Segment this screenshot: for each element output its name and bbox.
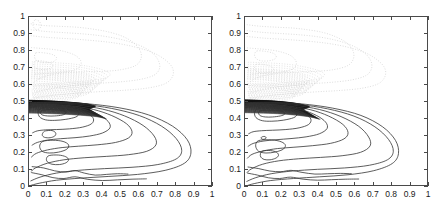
x-tick-mark [391, 182, 392, 186]
y-tick-mark [28, 152, 32, 153]
y-tick-mark-right [208, 101, 212, 102]
x-tick-label: 0.2 [59, 190, 71, 199]
x-tick-mark [410, 182, 411, 186]
y-tick-mark-right [208, 186, 212, 187]
y-tick-label: 0.2 [2, 148, 25, 157]
y-tick-mark [28, 135, 32, 136]
y-tick-mark [244, 84, 248, 85]
x-tick-mark [194, 182, 195, 186]
y-tick-mark-right [208, 50, 212, 51]
x-tick-label: 0.9 [188, 190, 200, 199]
x-tick-mark-top [194, 16, 195, 20]
x-tick-mark-top [318, 16, 319, 20]
y-tick-mark-right [424, 169, 428, 170]
x-tick-label: 0.4 [96, 190, 108, 199]
y-tick-label: 1 [218, 12, 241, 21]
x-tick-mark-top [428, 16, 429, 20]
x-tick-label: 0.8 [169, 190, 181, 199]
contour-path [245, 102, 398, 186]
x-tick-mark [138, 182, 139, 186]
y-tick-mark-right [424, 84, 428, 85]
y-tick-label: 0.4 [218, 114, 241, 123]
y-tick-mark [28, 169, 32, 170]
x-tick-label: 0 [242, 190, 247, 199]
y-tick-mark [28, 67, 32, 68]
x-tick-mark [46, 182, 47, 186]
contour-path [255, 51, 277, 61]
x-tick-label: 0.1 [256, 190, 268, 199]
y-tick-mark [244, 16, 248, 17]
right-contour-panel: 00.10.20.30.40.50.60.70.80.9100.10.20.30… [218, 0, 435, 220]
x-tick-label: 0.8 [385, 190, 397, 199]
y-tick-mark [28, 118, 32, 119]
y-tick-label: 0.5 [2, 97, 25, 106]
contour-path [261, 136, 266, 139]
x-tick-label: 0.7 [367, 190, 379, 199]
x-tick-mark-top [299, 16, 300, 20]
y-tick-mark-right [208, 135, 212, 136]
y-tick-mark-right [208, 152, 212, 153]
contour-path [42, 130, 56, 137]
x-tick-label: 0.1 [40, 190, 52, 199]
y-tick-mark [28, 186, 32, 187]
x-tick-label: 0.5 [114, 190, 126, 199]
y-tick-mark [244, 50, 248, 51]
x-tick-label: 0.3 [77, 190, 89, 199]
contour-path [34, 61, 53, 70]
y-tick-mark [28, 33, 32, 34]
y-tick-label: 0 [218, 182, 241, 191]
y-tick-mark-right [424, 135, 428, 136]
x-tick-mark-top [138, 16, 139, 20]
y-tick-mark-right [208, 118, 212, 119]
y-tick-mark-right [424, 152, 428, 153]
x-tick-label: 0.5 [330, 190, 342, 199]
contour-path [247, 31, 372, 93]
y-tick-label: 1 [2, 12, 25, 21]
x-tick-mark [157, 182, 158, 186]
x-tick-mark [212, 182, 213, 186]
x-tick-mark-top [65, 16, 66, 20]
y-tick-mark-right [208, 67, 212, 68]
x-tick-mark-top [212, 16, 213, 20]
y-tick-label: 0.6 [2, 80, 25, 89]
y-tick-mark-right [208, 84, 212, 85]
y-tick-label: 0.3 [218, 131, 241, 140]
y-tick-mark [28, 84, 32, 85]
y-tick-mark [244, 186, 248, 187]
x-tick-mark [373, 182, 374, 186]
y-tick-label: 0.1 [2, 165, 25, 174]
x-tick-label: 0.9 [404, 190, 416, 199]
y-tick-mark [244, 152, 248, 153]
contour-path [246, 103, 394, 182]
y-tick-label: 0.7 [218, 63, 241, 72]
x-tick-mark [281, 182, 282, 186]
x-tick-label: 0.4 [312, 190, 324, 199]
y-tick-mark-right [424, 118, 428, 119]
x-tick-mark-top [354, 16, 355, 20]
y-tick-mark [244, 118, 248, 119]
left-axes-box [28, 16, 212, 186]
x-tick-mark-top [262, 16, 263, 20]
x-tick-mark-top [120, 16, 121, 20]
x-tick-label: 0.3 [293, 190, 305, 199]
y-tick-mark [244, 33, 248, 34]
y-tick-label: 0.6 [218, 80, 241, 89]
y-tick-label: 0.2 [218, 148, 241, 157]
x-tick-mark-top [175, 16, 176, 20]
x-tick-mark [299, 182, 300, 186]
contour-path [247, 173, 359, 180]
y-tick-label: 0 [2, 182, 25, 191]
contour-path [32, 73, 91, 89]
y-tick-mark [244, 135, 248, 136]
x-tick-mark-top [410, 16, 411, 20]
x-tick-mark-top [391, 16, 392, 20]
y-tick-mark-right [424, 50, 428, 51]
contour-path [35, 52, 57, 62]
contour-path [248, 62, 325, 85]
y-tick-mark-right [424, 101, 428, 102]
y-tick-label: 0.5 [218, 97, 241, 106]
y-tick-mark [28, 16, 32, 17]
contour-path [31, 30, 160, 93]
y-tick-mark-right [208, 33, 212, 34]
contour-path [247, 74, 310, 97]
